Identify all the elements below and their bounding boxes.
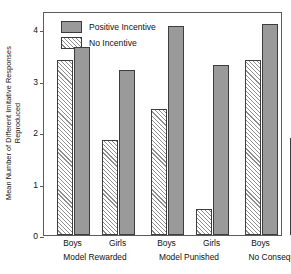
y-axis-title-line-2: Reproduced bbox=[13, 46, 22, 200]
x-category-label: Girls bbox=[109, 238, 126, 248]
y-tick-label: 2 bbox=[24, 128, 38, 138]
y-tick-label: 3 bbox=[24, 77, 38, 87]
bar-no-incentive-4 bbox=[245, 60, 261, 235]
bar-positive-incentive-1 bbox=[119, 70, 135, 235]
bar-no-incentive-2 bbox=[151, 109, 167, 235]
y-axis-tick-labels: 01234 bbox=[22, 0, 38, 246]
x-axis-category-labels: BoysGirlsBoysGirlsBoysGirls bbox=[43, 238, 282, 252]
y-tick-label: 1 bbox=[24, 180, 38, 190]
y-axis-title-line-1: Mean Number of Different Imitative Respo… bbox=[4, 46, 13, 200]
y-tick-label: 4 bbox=[24, 25, 38, 35]
bar-no-incentive-0 bbox=[57, 60, 73, 235]
y-tick-label: 0 bbox=[24, 231, 38, 241]
bar-positive-incentive-0 bbox=[74, 47, 90, 235]
x-group-label: Model Rewarded bbox=[63, 252, 126, 262]
x-category-label: Boys bbox=[63, 238, 82, 248]
bar-no-incentive-1 bbox=[102, 140, 118, 235]
bar-chart: Mean Number of Different Imitative Respo… bbox=[0, 0, 291, 274]
bar-no-incentive-5 bbox=[290, 138, 291, 235]
x-category-label: Girls bbox=[203, 238, 220, 248]
plot-area: Positive Incentive No Incentive bbox=[43, 12, 282, 236]
x-category-label: Boys bbox=[251, 238, 270, 248]
bar-no-incentive-3 bbox=[196, 209, 212, 235]
bar-positive-incentive-4 bbox=[262, 24, 278, 235]
x-category-label: Boys bbox=[157, 238, 176, 248]
x-group-label: No Consequences bbox=[249, 252, 291, 262]
bar-positive-incentive-3 bbox=[213, 65, 229, 235]
bar-positive-incentive-2 bbox=[168, 26, 184, 235]
x-axis-group-labels: Model RewardedModel PunishedNo Consequen… bbox=[43, 252, 282, 266]
x-group-label: Model Punished bbox=[159, 252, 219, 262]
bar-series-container bbox=[44, 13, 281, 235]
